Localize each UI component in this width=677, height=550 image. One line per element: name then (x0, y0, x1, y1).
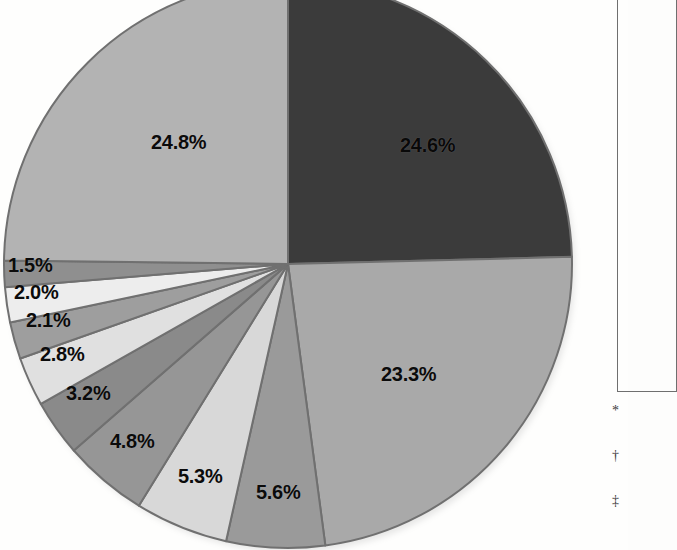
slice-label-1: 24.6% (400, 134, 455, 157)
pie-slices-group (4, 0, 572, 548)
pie-slice (288, 257, 572, 546)
pie-slice (4, 0, 288, 264)
slice-label-8: 2.1% (26, 309, 70, 332)
slice-label-2: 23.3% (381, 363, 436, 386)
legend-box (617, 0, 677, 392)
slice-label-9: 2.0% (14, 281, 58, 304)
footnote-marker: † (612, 449, 636, 494)
slice-label-3: 5.6% (256, 481, 300, 504)
footnote-marker: ‡ (612, 494, 636, 539)
slice-label-11: 24.8% (151, 131, 206, 154)
slice-label-6: 3.2% (66, 382, 110, 405)
pie-slice (288, 0, 572, 264)
footnote-marker-list: * † ‡ (612, 404, 636, 539)
slice-label-7: 2.8% (40, 343, 84, 366)
slice-label-5: 4.8% (110, 430, 154, 453)
slice-label-4: 5.3% (178, 465, 222, 488)
footnote-marker: * (612, 404, 636, 449)
slice-label-10: 1.5% (8, 254, 52, 277)
